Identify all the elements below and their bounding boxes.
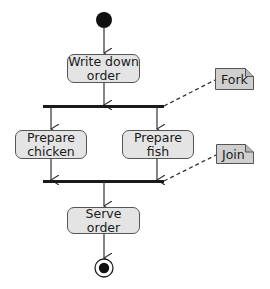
note-fork: Fork [215, 68, 254, 90]
initial-node [96, 12, 112, 28]
action-serve-order: Serve order [67, 207, 140, 234]
note-label: Fork [221, 72, 248, 87]
action-write-down-order: Write down order [67, 54, 140, 83]
action-prepare-fish: Prepare fish [122, 130, 194, 159]
action-label: Prepare fish [134, 131, 182, 159]
action-prepare-chicken: Prepare chicken [15, 130, 87, 159]
note-label: Join [222, 147, 245, 162]
fork-bar [43, 105, 164, 108]
fork-note-connector [164, 80, 215, 106]
action-label: Serve order [86, 207, 122, 235]
action-label: Prepare chicken [27, 131, 75, 159]
note-join: Join [216, 144, 254, 164]
final-node [95, 259, 113, 277]
action-label: Write down order [68, 55, 139, 83]
